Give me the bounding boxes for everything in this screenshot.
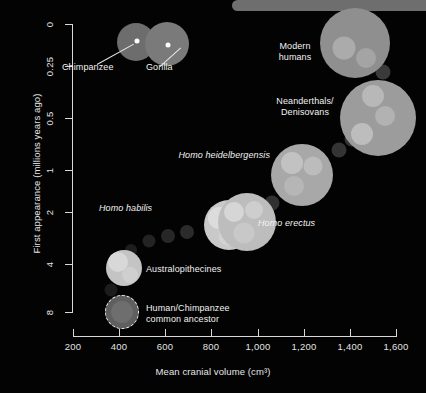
bubble-inner-blob — [333, 37, 356, 60]
label-gorilla: Gorilla — [146, 62, 173, 73]
y-tick-05 — [65, 118, 72, 119]
plot-area: 0 0.25 0.5 1 2 4 8 First appearance (mil… — [0, 0, 426, 393]
bubble-inner-blob — [356, 48, 376, 68]
x-axis-title: Mean cranial volume (cm³) — [0, 366, 426, 377]
bubble-inner-blob — [284, 176, 304, 196]
bubble-inner-blob — [122, 267, 138, 283]
label-neanderthals-line2: Denisovans — [281, 107, 329, 118]
trail-dot — [161, 229, 175, 243]
x-axis-line — [73, 336, 397, 337]
y-tick-4 — [65, 264, 72, 265]
x-tick-200 — [73, 329, 74, 336]
bubble-inner-blob — [224, 202, 244, 222]
y-tick-label-05: 0.5 — [44, 108, 55, 130]
trail-dot — [332, 143, 347, 158]
label-common-ancestor-line1: Human/Chimpanzee — [146, 303, 230, 314]
x-tick-label-800: 800 — [203, 341, 219, 352]
x-tick-1400 — [350, 329, 351, 336]
x-tick-label-1200: 1,200 — [292, 341, 317, 352]
y-tick-label-4: 4 — [44, 254, 55, 276]
trail-dot — [143, 235, 156, 248]
y-tick-8 — [65, 312, 72, 313]
bubble-inner-blob — [111, 301, 133, 323]
x-tick-1600 — [396, 329, 397, 336]
chart-figure: 0 0.25 0.5 1 2 4 8 First appearance (mil… — [0, 0, 426, 393]
y-tick-label-8: 8 — [44, 302, 55, 324]
bubble-modern-humans[interactable] — [320, 8, 390, 78]
label-homo-erectus: Homo erectus — [258, 218, 315, 229]
x-tick-800 — [211, 329, 212, 336]
y-axis-title: First appearance (millions years ago) — [31, 64, 42, 284]
y-tick-label-0: 0 — [44, 14, 55, 36]
label-modern-humans-line1: Modern — [279, 41, 310, 52]
bubble-homo-heidelbergensis[interactable] — [271, 144, 333, 206]
y-tick-1 — [65, 170, 72, 171]
bubble-inner-blob — [351, 123, 373, 145]
x-tick-label-1000: 1,000 — [246, 341, 271, 352]
x-tick-1200 — [304, 329, 305, 336]
label-neanderthals-line1: Neanderthals/ — [276, 96, 333, 107]
label-australopithecines: Australopithecines — [146, 264, 221, 275]
label-chimpanzee: Chimpanzee — [62, 62, 114, 73]
label-common-ancestor-line2: common ancestor — [146, 314, 219, 325]
y-tick-0 — [65, 24, 72, 25]
x-tick-label-200: 200 — [65, 341, 81, 352]
x-tick-label-600: 600 — [157, 341, 173, 352]
bubble-inner-blob — [362, 85, 384, 107]
trail-dot — [180, 225, 194, 239]
bubble-inner-blob — [304, 157, 323, 176]
x-tick-400 — [119, 329, 120, 336]
y-tick-label-1: 1 — [44, 160, 55, 182]
label-homo-habilis: Homo habilis — [99, 203, 152, 214]
x-tick-1000 — [258, 329, 259, 336]
x-tick-600 — [165, 329, 166, 336]
y-tick-label-025: 0.25 — [44, 56, 55, 78]
trail-dot — [105, 284, 118, 297]
label-homo-heidelbergensis: Homo heidelbergensis — [178, 150, 270, 161]
y-tick-label-2: 2 — [44, 202, 55, 224]
label-modern-humans-line2: humans — [279, 52, 312, 63]
bubble-inner-blob — [245, 201, 263, 219]
x-tick-label-1400: 1,400 — [338, 341, 363, 352]
bubble-inner-blob — [281, 152, 303, 174]
bubble-inner-blob — [375, 106, 395, 126]
leader-dot-chimpanzee — [135, 39, 140, 44]
x-tick-label-400: 400 — [111, 341, 127, 352]
bubble-inner-blob — [234, 223, 255, 244]
y-tick-2 — [65, 212, 72, 213]
x-tick-label-1600: 1,600 — [384, 341, 409, 352]
leader-dot-gorilla — [166, 43, 171, 48]
